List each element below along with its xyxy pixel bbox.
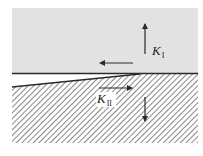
crack-diagram: KI KII (0, 0, 203, 156)
